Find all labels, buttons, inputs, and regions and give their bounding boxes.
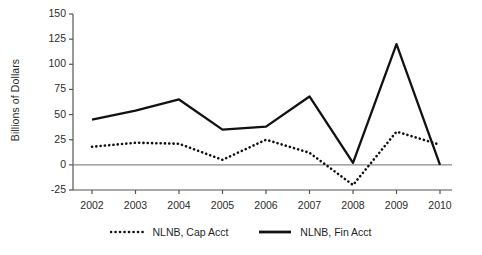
chart-legend: NLNB, Cap AcctNLNB, Fin Acct bbox=[0, 226, 482, 238]
legend-entry: NLNB, Fin Acct bbox=[258, 226, 371, 238]
chart-figure: Billions of Dollars -250255075100125150 … bbox=[0, 0, 482, 255]
series-line-1 bbox=[92, 44, 440, 165]
chart-plot-area bbox=[0, 0, 482, 255]
legend-label: NLNB, Cap Acct bbox=[152, 226, 228, 238]
series-line-0 bbox=[92, 132, 440, 185]
legend-label: NLNB, Fin Acct bbox=[300, 226, 371, 238]
legend-entry: NLNB, Cap Acct bbox=[110, 226, 228, 238]
legend-dotted-line-icon bbox=[110, 227, 144, 237]
legend-solid-line-icon bbox=[258, 227, 292, 237]
